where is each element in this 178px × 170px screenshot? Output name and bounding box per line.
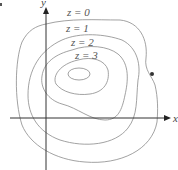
x-axis-arrow-icon xyxy=(164,115,171,121)
label-z1: z = 1 xyxy=(65,22,89,34)
label-z2: z = 2 xyxy=(70,36,94,48)
contour-peak xyxy=(68,68,90,80)
y-axis-arrow-icon xyxy=(43,7,49,14)
x-axis-label: x xyxy=(172,112,178,124)
marked-point xyxy=(150,72,154,76)
contour-diagram: y x z = 0 z = 1 z = 2 z = 3 xyxy=(0,0,178,170)
label-z3: z = 3 xyxy=(74,49,98,61)
y-axis-label: y xyxy=(40,0,46,8)
contour-z3 xyxy=(55,58,108,94)
label-z0: z = 0 xyxy=(66,6,90,18)
corner-mark xyxy=(0,3,2,6)
